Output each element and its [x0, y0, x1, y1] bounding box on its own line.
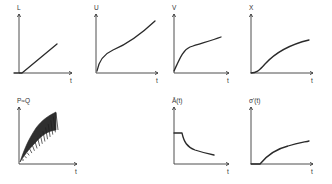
- x-axis-label: t: [311, 77, 313, 84]
- x-axis-label: t: [70, 77, 72, 84]
- panel-u: Ut: [94, 4, 158, 84]
- panel-s: σ'(t)t: [249, 97, 313, 175]
- x-axis-label: t: [227, 168, 229, 175]
- oscillation-stroke: [35, 142, 37, 149]
- x-axis-label: t: [311, 168, 313, 175]
- panel-pq: P≈Qt: [17, 97, 77, 175]
- curve: [174, 133, 214, 155]
- oscillation-stroke: [25, 156, 27, 157]
- curve: [14, 44, 57, 73]
- curve: [174, 37, 221, 71]
- y-axis-label: U: [94, 4, 99, 11]
- panel-a: Ā(t)t: [172, 97, 229, 175]
- x-axis-label: t: [75, 168, 77, 175]
- curve: [251, 141, 309, 164]
- oscillation-stroke: [30, 149, 32, 153]
- x-axis-label: t: [227, 77, 229, 84]
- panel-x: Xt: [249, 4, 313, 84]
- panel-v: Vt: [172, 4, 229, 84]
- oscillation-band: [20, 112, 56, 162]
- y-axis-label: Ā(t): [172, 97, 182, 105]
- y-axis-label: σ'(t): [249, 97, 260, 105]
- curve: [251, 40, 309, 73]
- panel-l: Lt: [14, 4, 72, 84]
- y-axis-label: X: [249, 4, 254, 11]
- curve: [97, 21, 155, 71]
- y-axis-label: V: [172, 4, 177, 11]
- figure: LtUtVtXtP≈QtĀ(t)tσ'(t)t: [0, 0, 332, 184]
- x-axis-label: t: [156, 77, 158, 84]
- oscillation-stroke: [32, 146, 34, 151]
- y-axis-label: L: [17, 4, 21, 11]
- oscillation-stroke: [27, 153, 29, 156]
- y-axis-label: P≈Q: [17, 97, 30, 105]
